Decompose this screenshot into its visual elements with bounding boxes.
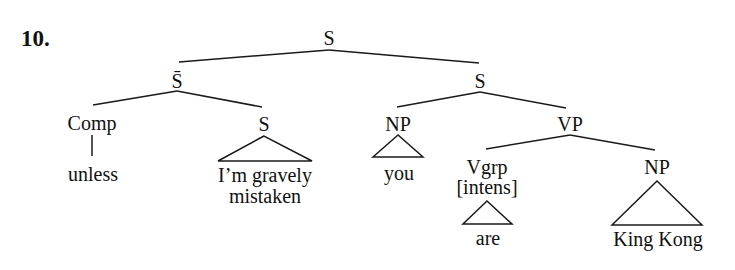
node-np-obj: NP	[644, 156, 670, 178]
leaf-unless: unless	[68, 163, 118, 185]
edge-sbar-to-comp	[93, 91, 177, 105]
edge-s-to-s	[329, 50, 479, 63]
node-s-bar: S̄	[171, 70, 182, 92]
leaf-king-kong: King Kong	[613, 228, 702, 251]
node-comp: Comp	[68, 112, 117, 135]
node-s-sub: S	[258, 113, 269, 135]
edge-s-to-np	[397, 92, 480, 107]
edge-vp-to-vgrp	[486, 135, 570, 149]
node-vp: VP	[557, 113, 583, 135]
leaf-are: are	[476, 227, 501, 249]
node-s-main: S	[474, 70, 485, 92]
triangle-icon	[612, 181, 702, 225]
triangle-icon	[373, 135, 423, 157]
triangle-icon	[218, 136, 312, 161]
edge-vp-to-np	[570, 135, 655, 150]
leaf-you: you	[384, 162, 414, 185]
leaf-clause-line2: mistaken	[229, 185, 301, 207]
leaf-clause-line1: I’m gravely	[218, 164, 312, 187]
node-s-root: S	[323, 27, 334, 49]
node-np-subj: NP	[385, 113, 411, 135]
example-number: 10.	[21, 26, 50, 51]
node-vgrp-feature: [intens]	[456, 176, 517, 198]
syntax-tree: 10. S S̄ Comp unless S I’m gravely mista…	[0, 0, 735, 270]
edge-s-to-vp	[480, 92, 566, 108]
s-bar-label: S̄	[171, 70, 182, 92]
triangle-icon	[463, 201, 512, 224]
edge-sbar-to-s	[177, 91, 262, 107]
edge-s-to-sbar	[179, 50, 329, 62]
